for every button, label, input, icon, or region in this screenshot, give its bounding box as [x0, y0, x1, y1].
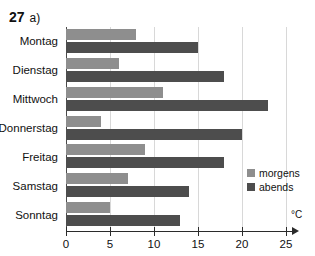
- bar-morgens-donnerstag: [66, 116, 101, 127]
- bar-group: [66, 27, 286, 56]
- gridline-25: [286, 27, 287, 229]
- x-tick-mark-5: [110, 227, 111, 236]
- bar-group: [66, 114, 286, 143]
- legend-swatch-morgens: [247, 169, 255, 177]
- legend-label-abends: abends: [259, 181, 293, 193]
- bar-morgens-montag: [66, 29, 136, 40]
- y-axis-labels: MontagDienstagMittwochDonnerstagFreitagS…: [0, 27, 62, 229]
- legend-swatch-abends: [247, 183, 255, 191]
- bar-morgens-mittwoch: [66, 87, 163, 98]
- x-tick-mark-10: [154, 227, 155, 236]
- bar-abends-montag: [66, 42, 198, 53]
- bar-group: [66, 56, 286, 85]
- x-axis-unit-label: °C: [291, 209, 302, 220]
- bar-group: [66, 200, 286, 229]
- bar-morgens-dienstag: [66, 58, 119, 69]
- y-tick-label-sonntag: Sonntag: [15, 200, 58, 229]
- bar-abends-dienstag: [66, 71, 224, 82]
- x-tick-mark-25: [286, 227, 287, 236]
- figure-part-label: a): [30, 12, 41, 24]
- y-tick-label-donnerstag: Donnerstag: [0, 114, 58, 143]
- figure-number: 27: [9, 10, 25, 24]
- x-tick-label-10: 10: [148, 238, 161, 250]
- bar-morgens-samstag: [66, 173, 128, 184]
- x-tick-label-5: 5: [107, 238, 113, 250]
- x-tick-label-0: 0: [63, 238, 69, 250]
- x-axis-line: [66, 231, 294, 232]
- bar-abends-samstag: [66, 186, 189, 197]
- x-tick-label-20: 20: [236, 238, 249, 250]
- bar-group: [66, 85, 286, 114]
- plot-area: [66, 27, 286, 229]
- bar-groups: [66, 27, 286, 229]
- y-tick-label-mittwoch: Mittwoch: [13, 85, 58, 114]
- bar-abends-donnerstag: [66, 129, 242, 140]
- figure-header: 27 a): [9, 10, 40, 24]
- x-tick-label-15: 15: [192, 238, 205, 250]
- x-axis-arrow: [292, 227, 299, 235]
- x-tick-mark-0: [66, 227, 67, 236]
- x-tick-mark-20: [242, 227, 243, 236]
- x-tick-mark-15: [198, 227, 199, 236]
- legend-item-morgens: morgens: [247, 167, 300, 179]
- y-tick-label-freitag: Freitag: [22, 142, 58, 171]
- y-tick-label-dienstag: Dienstag: [13, 56, 58, 85]
- y-tick-label-montag: Montag: [20, 27, 58, 56]
- legend: morgensabends: [247, 167, 300, 193]
- bar-abends-sonntag: [66, 215, 180, 226]
- bar-abends-mittwoch: [66, 100, 268, 111]
- bar-morgens-freitag: [66, 144, 145, 155]
- bar-abends-freitag: [66, 157, 224, 168]
- figure-chart: 27 a) MontagDienstagMittwochDonnerstagFr…: [0, 0, 315, 256]
- bar-morgens-sonntag: [66, 202, 110, 213]
- x-tick-label-25: 25: [280, 238, 293, 250]
- y-tick-label-samstag: Samstag: [13, 171, 58, 200]
- legend-label-morgens: morgens: [259, 167, 300, 179]
- legend-item-abends: abends: [247, 181, 300, 193]
